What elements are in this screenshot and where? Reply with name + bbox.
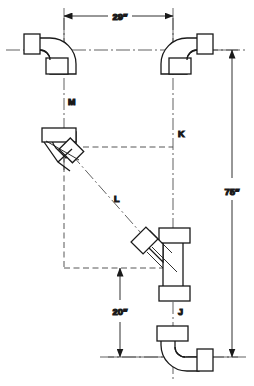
- dimension-29-label: 29″: [112, 11, 128, 22]
- wye-fitting: [131, 227, 190, 301]
- elbow-top-left: [24, 34, 76, 74]
- elbow-top-right: [161, 34, 213, 74]
- technical-drawing-sheet: 29″ 75″ 20″: [0, 0, 254, 386]
- callout-M: M: [68, 97, 76, 107]
- callout-J: J: [178, 307, 183, 317]
- pipe-layout-drawing: 29″ 75″ 20″: [0, 0, 254, 386]
- dimension-75-label: 75″: [224, 186, 240, 197]
- dimension-20-label: 20″: [112, 306, 128, 317]
- elbow-45-left: [42, 128, 84, 171]
- dimension-75: [186, 50, 238, 357]
- elbow-bottom-right: [157, 326, 213, 371]
- callout-L: L: [114, 194, 120, 204]
- callout-K: K: [178, 129, 185, 139]
